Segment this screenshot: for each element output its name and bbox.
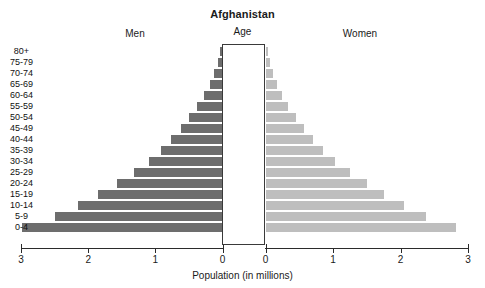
women-bar xyxy=(266,212,427,221)
axis-tick xyxy=(333,248,334,253)
women-bar xyxy=(266,190,385,199)
women-bar xyxy=(266,223,456,232)
age-group-label: 25-29 xyxy=(0,167,43,178)
men-bar xyxy=(161,146,223,155)
men-bar xyxy=(78,201,222,210)
age-group-label: 15-19 xyxy=(0,189,43,200)
age-group-label: 40-44 xyxy=(0,134,43,145)
x-tick-label-right: 2 xyxy=(389,254,413,265)
women-bar xyxy=(266,69,273,78)
women-bar xyxy=(266,201,404,210)
women-bar xyxy=(266,179,367,188)
men-bar xyxy=(210,80,223,89)
men-bar xyxy=(98,190,222,199)
population-pyramid-chart: Afghanistan Age Men Women 80+75-7970-746… xyxy=(0,0,485,288)
women-bar xyxy=(266,168,350,177)
men-bar xyxy=(189,113,223,122)
women-bar xyxy=(266,47,268,56)
age-group-label: 80+ xyxy=(0,46,43,57)
men-bar xyxy=(197,102,223,111)
men-bar xyxy=(55,212,222,221)
age-label-box xyxy=(222,44,265,245)
x-axis-left xyxy=(21,248,223,249)
age-group-label: 60-64 xyxy=(0,90,43,101)
x-tick-label-left: 0 xyxy=(211,254,235,265)
x-axis-right xyxy=(265,248,468,249)
x-tick-label-left: 1 xyxy=(143,254,167,265)
axis-tick xyxy=(401,248,402,253)
women-bar xyxy=(266,102,289,111)
axis-end-cap xyxy=(266,244,267,249)
age-group-label: 65-69 xyxy=(0,79,43,90)
axis-tick xyxy=(88,248,89,253)
women-bar xyxy=(266,113,296,122)
age-group-label: 45-49 xyxy=(0,123,43,134)
axis-end-cap xyxy=(21,244,22,249)
women-bar xyxy=(266,91,283,100)
age-group-label: 5-9 xyxy=(0,211,43,222)
women-bar xyxy=(266,135,313,144)
women-bar xyxy=(266,124,304,133)
x-axis-caption: Population (in millions) xyxy=(0,270,485,281)
x-tick-label-left: 2 xyxy=(76,254,100,265)
axis-tick xyxy=(155,248,156,253)
men-bar xyxy=(22,223,222,232)
x-tick-label-left: 3 xyxy=(9,254,33,265)
x-tick-label-right: 0 xyxy=(254,254,278,265)
axis-end-cap xyxy=(468,244,469,249)
age-group-label: 35-39 xyxy=(0,145,43,156)
age-group-label: 20-24 xyxy=(0,178,43,189)
x-tick-label-right: 1 xyxy=(321,254,345,265)
men-bar xyxy=(134,168,223,177)
age-group-label: 55-59 xyxy=(0,101,43,112)
age-group-label: 75-79 xyxy=(0,57,43,68)
age-group-label: 0-4 xyxy=(0,222,43,233)
men-bar xyxy=(204,91,223,100)
age-group-label: 30-34 xyxy=(0,156,43,167)
men-bar xyxy=(149,157,223,166)
women-bar xyxy=(266,80,277,89)
men-bar xyxy=(181,124,223,133)
women-bar xyxy=(266,146,323,155)
men-bar xyxy=(171,135,222,144)
x-tick-label-right: 3 xyxy=(456,254,480,265)
age-group-label: 50-54 xyxy=(0,112,43,123)
men-bar xyxy=(117,179,222,188)
women-bar xyxy=(266,157,336,166)
women-bar xyxy=(266,58,270,67)
age-group-label: 10-14 xyxy=(0,200,43,211)
age-group-label: 70-74 xyxy=(0,68,43,79)
